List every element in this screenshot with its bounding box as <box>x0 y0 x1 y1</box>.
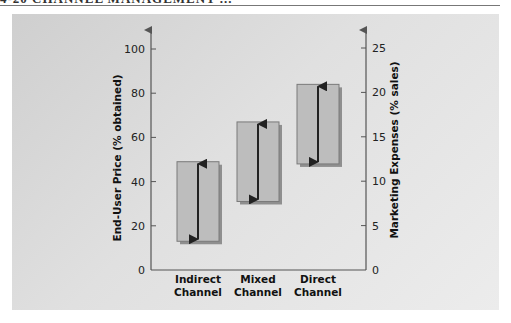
category-label: Channel <box>294 286 342 298</box>
right-axis-tick-label: 0 <box>372 264 379 277</box>
left-axis-tick-label: 100 <box>124 43 145 56</box>
right-axis-tick-label: 15 <box>372 131 386 144</box>
right-axis-tick-label: 5 <box>372 220 379 233</box>
right-axis-title: Marketing Expenses (% sales) <box>388 61 400 238</box>
left-axis-tick-label: 40 <box>131 176 145 189</box>
left-axis-tick-label: 60 <box>131 131 145 144</box>
left-axis-tick-label: 80 <box>131 87 145 100</box>
category-label: Indirect <box>175 273 221 285</box>
category-label: Channel <box>234 286 282 298</box>
left-axis-title: End-User Price (% obtained) <box>111 74 123 241</box>
right-axis-tick-label: 10 <box>372 175 386 188</box>
category-label: Mixed <box>240 273 275 285</box>
left-axis-tick-label: 20 <box>131 220 145 233</box>
right-axis-tick-label: 25 <box>372 42 386 55</box>
left-axis-tick-label: 0 <box>138 264 145 277</box>
category-label: Channel <box>174 286 222 298</box>
right-axis-tick-label: 20 <box>372 86 386 99</box>
category-label: Direct <box>300 273 336 285</box>
chart: 0204060801000510152025End-User Price (% … <box>0 0 511 323</box>
